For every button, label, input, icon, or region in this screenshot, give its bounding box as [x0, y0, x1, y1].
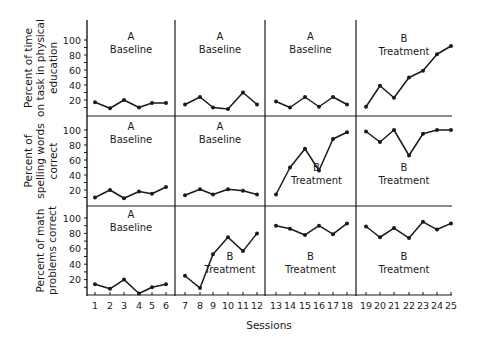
data-point [303, 95, 307, 99]
data-point [378, 140, 382, 144]
data-line [95, 187, 166, 198]
panel-1: 20406080100Percent of timeon task in phy… [22, 19, 454, 117]
data-point [331, 95, 335, 99]
data-point [407, 76, 411, 80]
phase-label: Baseline [110, 134, 152, 145]
y-tick-label: 40 [69, 80, 81, 91]
phase-letter: B [227, 251, 234, 262]
y-tick-label: 20 [69, 185, 81, 196]
x-axis: 1234567891011121314151617181920212223242… [92, 292, 457, 331]
data-point [122, 196, 126, 200]
data-point [137, 106, 141, 110]
data-point [421, 132, 425, 136]
x-tick-label: 7 [182, 300, 188, 311]
chart-frame [87, 20, 452, 296]
data-point [211, 252, 215, 256]
y-tick-label: 60 [69, 243, 81, 254]
y-axis-label: on task in physical [34, 19, 46, 117]
data-point [122, 98, 126, 102]
data-point [274, 100, 278, 104]
data-point [364, 105, 368, 109]
phase-label: Baseline [110, 44, 152, 55]
data-point [435, 52, 439, 56]
y-tick-label: 100 [63, 213, 81, 224]
data-point [392, 128, 396, 132]
data-line [276, 223, 347, 235]
x-tick-label: 25 [445, 300, 457, 311]
x-tick-label: 8 [197, 300, 203, 311]
x-tick-label: 11 [237, 300, 249, 311]
data-point [331, 137, 335, 141]
data-point [183, 274, 187, 278]
y-tick-label: 100 [63, 35, 81, 46]
phase-letter: A [307, 31, 314, 42]
phase-label: Baseline [289, 44, 331, 55]
data-point [226, 187, 230, 191]
phase-letter: A [128, 121, 135, 132]
y-tick-label: 40 [69, 170, 81, 181]
data-point [93, 100, 97, 104]
phase-label: Treatment [284, 264, 336, 275]
data-point [421, 220, 425, 224]
x-tick-label: 2 [107, 300, 113, 311]
data-point [241, 249, 245, 253]
data-point [449, 128, 453, 132]
data-point [407, 236, 411, 240]
y-tick-label: 20 [69, 95, 81, 106]
x-tick-label: 24 [431, 300, 443, 311]
data-point [93, 282, 97, 286]
y-tick-label: 80 [69, 140, 81, 151]
y-tick-label: 80 [69, 50, 81, 61]
data-point [108, 287, 112, 291]
phase-label: Baseline [199, 44, 241, 55]
phase-letter: A [128, 209, 135, 220]
data-point [303, 233, 307, 237]
x-tick-label: 20 [374, 300, 386, 311]
data-point [331, 232, 335, 236]
data-line [185, 233, 257, 288]
data-point [317, 224, 321, 228]
data-point [317, 105, 321, 109]
x-tick-label: 23 [417, 300, 429, 311]
data-point [274, 224, 278, 228]
x-tick-label: 16 [313, 300, 325, 311]
phase-label: Treatment [204, 264, 256, 275]
y-tick-label: 80 [69, 228, 81, 239]
y-axis-label: correct [47, 143, 59, 180]
data-point [303, 147, 307, 151]
data-point [164, 101, 168, 105]
y-tick-label: 100 [63, 125, 81, 136]
data-point [449, 44, 453, 48]
x-tick-label: 10 [222, 300, 234, 311]
phase-letter: A [217, 121, 224, 132]
data-point [345, 103, 349, 107]
phase-label: Treatment [290, 175, 342, 186]
x-tick-label: 21 [388, 300, 400, 311]
y-tick-label: 20 [69, 274, 81, 285]
y-axis-label: Percent of time [22, 28, 34, 108]
data-line [95, 280, 166, 294]
y-axis-label: Percent of [22, 134, 34, 187]
phase-letter: A [217, 31, 224, 42]
data-line [276, 97, 347, 108]
data-point [211, 193, 215, 197]
data-point [435, 228, 439, 232]
y-axis-label: spelling words [34, 123, 46, 198]
data-point [108, 106, 112, 110]
data-point [183, 193, 187, 197]
data-point [345, 130, 349, 134]
data-point [108, 188, 112, 192]
data-point [274, 193, 278, 197]
data-point [198, 286, 202, 290]
data-point [150, 192, 154, 196]
phase-label: Treatment [378, 46, 430, 57]
data-point [137, 190, 141, 194]
data-point [255, 193, 259, 197]
data-point [226, 235, 230, 239]
x-tick-label: 5 [149, 300, 155, 311]
data-point [407, 154, 411, 158]
data-point [164, 282, 168, 286]
phase-label: Treatment [378, 175, 430, 186]
x-tick-label: 1 [92, 300, 98, 311]
x-tick-label: 6 [163, 300, 169, 311]
